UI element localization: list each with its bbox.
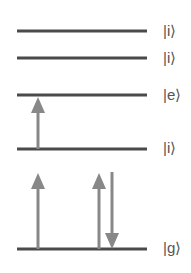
level-label-i-top: |i⟩ (163, 23, 176, 38)
transition-arrows (31, 97, 119, 249)
arrow-g-to-i1-icon (31, 173, 45, 249)
level-label-e: |e⟩ (163, 87, 181, 102)
level-label-i-lower: |i⟩ (163, 140, 176, 155)
arrow-i1-to-g-right-icon (105, 172, 119, 249)
energy-level-diagram (0, 0, 191, 273)
arrow-g-to-i1-right-icon (92, 173, 106, 249)
level-label-g: |g⟩ (163, 240, 181, 255)
arrow-i1-to-e-icon (31, 97, 45, 149)
level-label-i-second: |i⟩ (163, 50, 176, 65)
